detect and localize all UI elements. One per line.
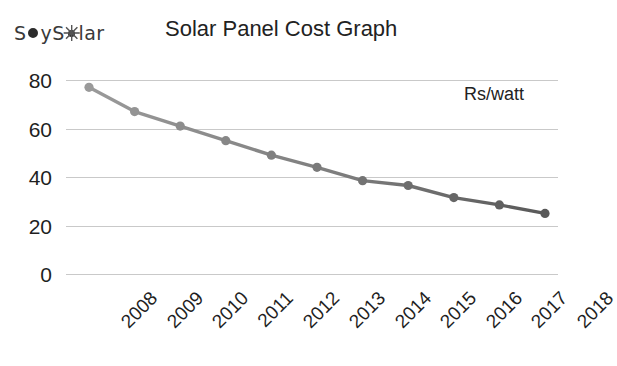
x-tick-label: 2009: [163, 288, 206, 331]
x-tick-label: 2010: [209, 288, 252, 331]
x-tick-label: 2014: [391, 288, 434, 331]
x-tick-label: 2018: [573, 288, 616, 331]
x-tick-label: 2011: [254, 288, 296, 330]
x-tick-label: 2017: [528, 288, 571, 331]
x-tick-label: 2008: [117, 288, 160, 331]
unit-annotation: Rs/watt: [464, 84, 524, 105]
x-tick-label: 2012: [300, 288, 343, 331]
x-tick-label: 2013: [345, 288, 388, 331]
x-tick-label: 2016: [482, 288, 525, 331]
x-tick-label: 2015: [437, 288, 480, 331]
